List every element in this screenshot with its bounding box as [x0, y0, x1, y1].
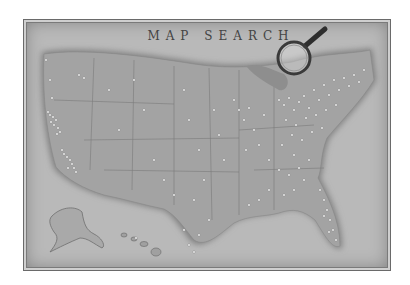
hawaii	[121, 233, 161, 256]
alaska	[50, 208, 104, 252]
map-frame: MAP SEARCH	[23, 19, 391, 271]
us-map[interactable]	[24, 20, 390, 270]
magnifying-glass-icon[interactable]	[272, 24, 332, 84]
